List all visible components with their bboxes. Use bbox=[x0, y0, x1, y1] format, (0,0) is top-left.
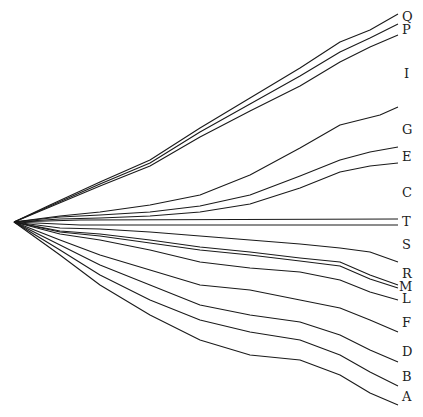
line-label-l: L bbox=[402, 292, 411, 305]
trajectory-line-b bbox=[14, 222, 398, 386]
line-label-g: G bbox=[402, 123, 412, 136]
line-label-p: P bbox=[402, 23, 411, 36]
line-label-s: S bbox=[402, 238, 411, 251]
line-label-d: D bbox=[402, 345, 412, 358]
trajectory-lines bbox=[0, 0, 423, 417]
line-label-c: C bbox=[402, 186, 412, 199]
line-label-a: A bbox=[402, 390, 411, 403]
trajectory-line-d bbox=[14, 222, 398, 362]
trajectory-diagram: QPIGECTSRMLFDBA bbox=[0, 0, 423, 417]
line-label-e: E bbox=[402, 150, 412, 163]
trajectory-line-t2 bbox=[14, 222, 398, 225]
trajectory-line-s bbox=[14, 222, 398, 262]
trajectory-line-r bbox=[14, 222, 398, 285]
trajectory-line-t1 bbox=[14, 219, 398, 222]
trajectory-line-a bbox=[14, 222, 398, 405]
line-label-t: T bbox=[402, 215, 411, 228]
trajectory-line-f bbox=[14, 222, 398, 332]
trajectory-line-q bbox=[14, 14, 398, 222]
line-label-f: F bbox=[402, 316, 411, 329]
line-label-i: I bbox=[404, 67, 409, 80]
line-label-b: B bbox=[402, 370, 412, 383]
